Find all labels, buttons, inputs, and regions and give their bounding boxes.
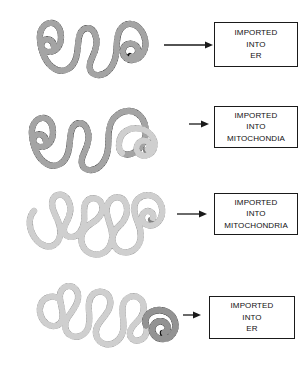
chain-1-beads — [40, 23, 146, 75]
diagram-row-1: IMPORTED INTO ER — [0, 0, 302, 95]
destination-line: IMPORTED — [235, 27, 278, 39]
destination-line: ER — [246, 323, 257, 335]
chain-4-black-segment — [145, 310, 175, 339]
beaded-chain-black — [30, 14, 175, 84]
beaded-chain-gray — [20, 183, 198, 265]
destination-line: MITOCHONDIA — [227, 133, 285, 145]
chain-2-container — [24, 100, 189, 180]
arrow-row-3 — [176, 207, 208, 221]
chain-1-container — [30, 14, 175, 84]
beaded-chain-gray-to-black — [16, 268, 196, 363]
chain-4-gray-segment — [40, 286, 147, 344]
destination-line: INTO — [246, 121, 265, 133]
destination-line: MITOCHONDRIA — [224, 220, 288, 232]
beaded-chain-black-to-gray — [24, 100, 189, 180]
chain-3-beads — [30, 195, 162, 255]
destination-line: IMPORTED — [235, 110, 278, 122]
chain-3-container — [20, 183, 198, 265]
destination-box-3: IMPORTED INTO MITOCHONDRIA — [214, 193, 298, 235]
destination-box-4: IMPORTED INTO ER — [209, 296, 295, 339]
destination-box-2: IMPORTED INTO MITOCHONDIA — [214, 106, 298, 148]
protein-targeting-diagram: IMPORTED INTO ER — [0, 0, 302, 368]
arrow-row-2 — [188, 117, 210, 131]
destination-line: INTO — [242, 312, 261, 324]
arrow-row-1 — [163, 38, 215, 52]
destination-line: INTO — [246, 208, 265, 220]
chain-4-container — [16, 268, 196, 363]
diagram-row-3: IMPORTED INTO MITOCHONDRIA — [0, 183, 302, 268]
arrow-row-4 — [182, 308, 202, 322]
chain-2-black-segment — [32, 111, 146, 170]
destination-box-1: IMPORTED INTO ER — [214, 22, 298, 67]
chain-2-gray-segment — [119, 128, 155, 156]
destination-line: IMPORTED — [231, 300, 274, 312]
diagram-row-4: IMPORTED INTO ER — [0, 268, 302, 368]
destination-line: IMPORTED — [235, 197, 278, 209]
destination-line: ER — [250, 50, 261, 62]
diagram-row-2: IMPORTED INTO MITOCHONDIA — [0, 95, 302, 185]
destination-line: INTO — [246, 39, 265, 51]
